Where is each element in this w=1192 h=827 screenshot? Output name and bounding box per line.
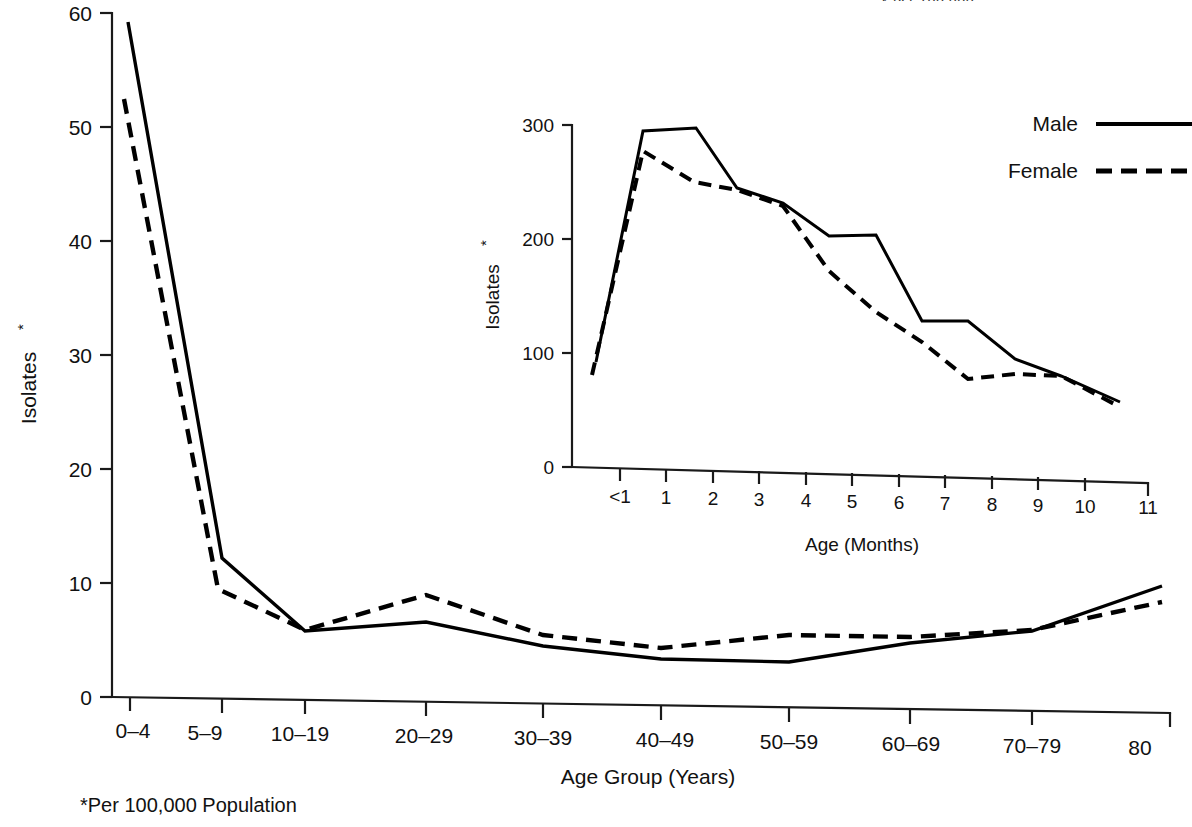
main-y-tick-label-40: 40 (69, 230, 92, 253)
legend-item-male: Male (1032, 112, 1192, 135)
inset-x-tick-label-4: 4 (801, 490, 812, 511)
legend: Male Female (1008, 112, 1192, 182)
main-x-tick-label-5: 40–49 (636, 728, 694, 751)
main-y-tick-label-30: 30 (69, 344, 92, 367)
inset-x-tick-label-1: 1 (661, 487, 672, 508)
inset-y-tick-label-300: 300 (522, 115, 554, 136)
inset-y-tick-label-100: 100 (522, 343, 554, 364)
inset-x-tick-label-11: 11 (1138, 497, 1158, 518)
main-x-axis-line (112, 697, 1170, 713)
cropped-header-fragment: y per 100,000 (880, 0, 974, 1)
main-x-tick-label-9: 80 (1128, 736, 1151, 759)
inset-y-tick-label-200: 200 (522, 229, 554, 250)
inset-x-axis-title: Age (Months) (805, 534, 919, 555)
main-y-tick-label-50: 50 (69, 116, 92, 139)
figure-canvas: y per 100,000 60 50 40 30 20 10 (0, 0, 1192, 827)
main-series-male (128, 22, 1162, 662)
inset-x-tick-label-7: 7 (940, 493, 951, 514)
chart-svg: 60 50 40 30 20 10 0 Isolates * (0, 0, 1192, 827)
legend-label-female: Female (1008, 159, 1078, 182)
main-x-axis-title: Age Group (Years) (561, 765, 735, 788)
inset-x-tick-label-5: 5 (847, 491, 858, 512)
main-y-tick-label-10: 10 (69, 572, 92, 595)
inset-y-axis-title-group: Isolates * (477, 240, 503, 330)
inset-x-tick-label-8: 8 (987, 494, 998, 515)
inset-x-tick-label-3: 3 (754, 489, 765, 510)
inset-x-tick-label-6: 6 (894, 492, 905, 513)
main-y-tick-label-60: 60 (69, 2, 92, 25)
main-x-tick-label-3: 20–29 (395, 724, 453, 747)
main-x-tick-label-6: 50–59 (760, 730, 818, 753)
main-y-tick-label-0: 0 (80, 686, 92, 709)
main-y-ticks (100, 13, 112, 697)
inset-x-tick-label-2: 2 (708, 488, 719, 509)
inset-x-tick-label-10: 10 (1074, 496, 1095, 517)
inset-y-tick-label-0: 0 (543, 457, 554, 478)
main-y-axis-title: Isolates (17, 352, 40, 424)
inset-y-axis-title-superscript: * (477, 240, 494, 246)
inset-x-tick-label-0: <1 (609, 486, 631, 507)
inset-x-tick-label-9: 9 (1033, 495, 1044, 516)
inset-y-axis-title: Isolates (482, 264, 503, 329)
figure-footnote: *Per 100,000 Population (80, 794, 297, 816)
main-x-tick-label-1: 5–9 (187, 721, 222, 744)
main-y-axis-title-superscript: * (14, 324, 31, 330)
main-chart: 60 50 40 30 20 10 0 Isolates * (14, 2, 1170, 788)
main-x-tick-label-4: 30–39 (514, 726, 572, 749)
legend-label-male: Male (1032, 112, 1078, 135)
main-y-tick-label-20: 20 (69, 458, 92, 481)
main-x-tick-label-2: 10–19 (271, 722, 329, 745)
main-x-tick-label-8: 70–79 (1003, 734, 1061, 757)
legend-item-female: Female (1008, 159, 1192, 182)
main-x-tick-label-0: 0–4 (115, 719, 150, 742)
main-x-tick-label-7: 60–69 (882, 732, 940, 755)
inset-y-ticks (562, 125, 572, 467)
inset-x-ticks (620, 468, 1148, 496)
main-y-axis-title-group: Isolates * (14, 324, 40, 424)
inset-x-axis-line (572, 467, 1148, 483)
